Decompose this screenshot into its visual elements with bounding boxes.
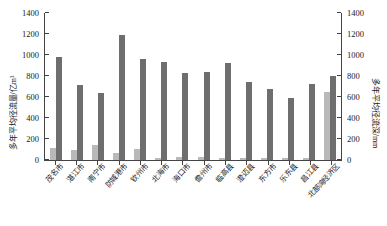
bar-group [45, 13, 66, 160]
x-axis-label: 东方市 [257, 163, 277, 184]
y-tick-label-left: 1200 [22, 30, 39, 39]
bar-series-1 [330, 76, 336, 160]
bar-group [320, 13, 341, 160]
runoff-bar-chart: 多年平均径流量/亿m³ 多年平均径流深/mm 02004006008001000… [0, 0, 387, 226]
y-tick-label-right: 0 [347, 156, 351, 165]
bar-series-1 [309, 84, 315, 160]
x-axis-labels: 茂名市湛江市南宁市防城港市钦州市北海市海口市儋州市临高县澄迈县东方市乐东县昌江县… [44, 163, 342, 225]
bar-groups [45, 13, 341, 160]
y-tick-label-right: 200 [347, 135, 360, 144]
y-tick-label-left: 800 [26, 72, 39, 81]
y-tick-label-right: 800 [347, 72, 360, 81]
bar-group [278, 13, 299, 160]
y-axis-left-title: 多年平均径流量/亿m³ [7, 70, 18, 156]
x-axis-label: 临高县 [215, 163, 235, 184]
bar-group [151, 13, 172, 160]
bar-series-1 [119, 35, 125, 160]
bar-series-1 [161, 62, 167, 160]
bar-group [235, 13, 256, 160]
x-axis-label: 南宁市 [87, 163, 107, 184]
y-tick-label-left: 200 [26, 135, 39, 144]
x-axis-label: 钦州市 [130, 163, 150, 184]
y-tick-label-left: 1000 [22, 51, 39, 60]
y-tick-label-left: 600 [26, 93, 39, 102]
bar-group [130, 13, 151, 160]
bar-group [193, 13, 214, 160]
x-axis-label: 儋州市 [194, 163, 214, 184]
x-axis-label: 澄迈县 [236, 163, 256, 184]
bar-series-1 [267, 89, 273, 160]
bar-group [87, 13, 108, 160]
plot-area: 0200400600800100012001400 02004006008001… [44, 13, 342, 161]
bar-series-1 [77, 85, 83, 160]
y-tick-label-right: 400 [347, 114, 360, 123]
bar-series-1 [182, 73, 188, 160]
x-axis-label: 海口市 [172, 163, 192, 184]
bar-series-1 [225, 63, 231, 160]
bar-series-1 [288, 98, 294, 160]
bar-group [108, 13, 129, 160]
y-tick-label-left: 0 [35, 156, 39, 165]
bar-group [214, 13, 235, 160]
bar-group [66, 13, 87, 160]
x-axis-label: 茂名市 [45, 163, 65, 184]
bar-group [299, 13, 320, 160]
bar-group [172, 13, 193, 160]
y-tick-label-right: 600 [347, 93, 360, 102]
bar-series-1 [140, 59, 146, 160]
y-tick-label-left: 1400 [22, 9, 39, 18]
y-tick-label-right: 1000 [347, 51, 364, 60]
bar-group [256, 13, 277, 160]
x-axis-label: 乐东县 [279, 163, 299, 184]
x-axis-label: 湛江市 [66, 163, 86, 184]
bar-series-1 [98, 93, 104, 160]
bar-series-1 [56, 57, 62, 160]
y-tick-label-right: 1200 [347, 30, 364, 39]
y-axis-right-title: 多年平均径流深/mm [371, 70, 382, 156]
y-tick-label-right: 1400 [347, 9, 364, 18]
y-tick-label-left: 400 [26, 114, 39, 123]
x-axis-label: 防城港市 [104, 163, 128, 189]
x-axis-label: 北海市 [151, 163, 171, 184]
bar-series-1 [204, 72, 210, 160]
bar-series-1 [246, 82, 252, 160]
